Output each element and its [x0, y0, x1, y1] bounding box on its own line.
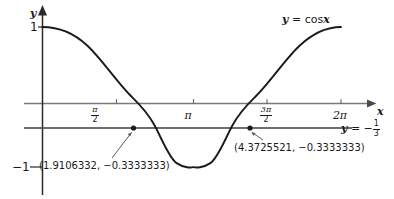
curve-eq-operator: =: [288, 13, 304, 26]
leader-arrow-left: [128, 132, 132, 136]
horizontal-line-equation-label: y = − 1 3: [341, 120, 380, 138]
x-tick-label-pi-over-2: π 2: [86, 106, 104, 124]
fraction-pi-over-2: π 2: [91, 106, 98, 124]
y-tick-label-negative-one: −1: [12, 161, 30, 173]
x-tick-label-3pi-over-2: 3π 2: [255, 106, 277, 124]
fraction-denominator: 2: [260, 116, 272, 125]
x-axis-label: x: [377, 106, 384, 117]
cosine-intersection-figure: y x 1 −1 π 2 π 3π 2 2π y = cosx y = − 1 …: [0, 0, 394, 199]
curve-eq-argument: x: [323, 13, 330, 26]
fraction-one-third: 1 3: [373, 120, 380, 138]
leader-line-left: [112, 133, 132, 159]
intersection-point-left: [131, 125, 136, 130]
fraction-3pi-over-2: 3π 2: [260, 106, 272, 124]
fraction-denominator: 3: [373, 130, 380, 139]
right-intersection-label: (4.3725521, −0.3333333): [234, 143, 365, 153]
curve-equation-label: y = cosx: [282, 14, 330, 25]
line-eq-operator: = −: [347, 122, 372, 135]
left-intersection-label: (1.9106332, −0.3333333): [39, 161, 170, 171]
curve-eq-function: cos: [305, 13, 324, 26]
fraction-denominator: 2: [91, 116, 98, 125]
y-axis-label: y: [30, 8, 36, 19]
intersection-point-right: [247, 125, 252, 130]
x-tick-label-pi: π: [180, 110, 196, 121]
y-tick-label-one: 1: [30, 21, 38, 33]
